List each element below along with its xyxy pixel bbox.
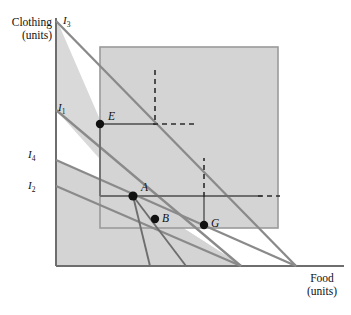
point-A bbox=[128, 191, 137, 200]
curve-label-I4: I4 bbox=[28, 148, 35, 160]
point-label-A: A bbox=[141, 181, 148, 193]
y-axis-label-line2: (units) bbox=[4, 29, 52, 42]
x-axis-label-line2: (units) bbox=[296, 285, 348, 298]
curve-label-I1: I1 bbox=[58, 101, 65, 113]
diagram-canvas bbox=[0, 0, 351, 315]
curve-label-I3-sub: 3 bbox=[67, 20, 71, 29]
y-axis-label: Clothing (units) bbox=[4, 16, 52, 42]
curve-label-I1-sub: 1 bbox=[62, 107, 66, 116]
curve-label-I2-sub: 2 bbox=[32, 185, 36, 194]
curve-label-I3: I3 bbox=[63, 14, 70, 26]
economics-diagram: Clothing (units) Food (units) I3 I1 I4 I… bbox=[0, 0, 351, 315]
x-axis-label: Food (units) bbox=[296, 272, 348, 298]
y-axis-label-line1: Clothing bbox=[12, 16, 52, 28]
point-label-B: B bbox=[162, 212, 169, 224]
point-E bbox=[96, 120, 104, 128]
curve-label-I4-sub: 4 bbox=[32, 154, 36, 163]
x-axis-label-line1: Food bbox=[310, 272, 334, 284]
feasible-area bbox=[100, 47, 278, 228]
curve-label-I2: I2 bbox=[28, 179, 35, 191]
point-label-G: G bbox=[211, 217, 219, 229]
point-B bbox=[151, 215, 159, 223]
point-G bbox=[200, 221, 208, 229]
point-label-E: E bbox=[108, 110, 115, 122]
